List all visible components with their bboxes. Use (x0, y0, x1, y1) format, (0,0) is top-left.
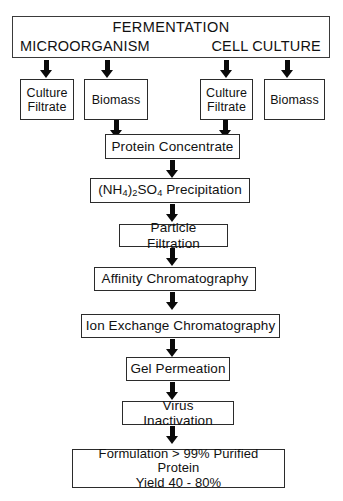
outcome-line1: Formulation > 99% Purified Protein (99, 446, 259, 476)
flowchart-canvas: FERMENTATION MICROORGANISM CELL CULTURE … (0, 0, 343, 501)
box-label-line1: Culture (206, 86, 247, 100)
step-label: (NH4)2SO4 Precipitation (91, 182, 249, 198)
arrow-header-to-cell-culture-filtrate (220, 60, 233, 78)
box-label-line2: Filtrate (207, 100, 246, 114)
box-label-line1: Culture (27, 86, 68, 100)
box-protein-concentrate: Protein Concentrate (105, 134, 240, 159)
microorganism-label: MICROORGANISM (20, 38, 150, 54)
step-label: Ion Exchange Chromatography (82, 318, 279, 333)
box-label-line1: Biomass (85, 93, 147, 107)
fermentation-header-box: FERMENTATION MICROORGANISM CELL CULTURE (12, 16, 330, 58)
step-label: Protein Concentrate (106, 139, 239, 154)
box-cell-culture-filtrate: Culture Filtrate (200, 79, 253, 120)
cell-culture-label: CELL CULTURE (211, 38, 321, 54)
arrow-header-to-cell-biomass (281, 60, 294, 78)
formula-prefix: (NH (98, 182, 122, 197)
fermentation-title: FERMENTATION (13, 19, 329, 35)
box-micro-culture-filtrate: Culture Filtrate (20, 79, 74, 120)
arrow-particle-filtration-to-affinity-chromatography (166, 248, 179, 266)
arrow-header-to-micro-biomass (101, 60, 114, 78)
box-particle-filtration: Particle Filtration (119, 224, 228, 247)
arrow-protein-concentrate-to-precipitation (166, 160, 179, 178)
arrow-precipitation-to-particle-filtration (166, 204, 179, 222)
step-label: Gel Permeation (127, 361, 229, 376)
step-label: Particle Filtration (120, 220, 227, 250)
arrow-header-to-micro-culture-filtrate (40, 60, 53, 78)
box-micro-biomass: Biomass (84, 79, 148, 120)
box-formulation-outcome: Formulation > 99% Purified Protein Yield… (72, 449, 285, 488)
box-ammonium-sulfate-precipitation: (NH4)2SO4 Precipitation (90, 178, 250, 203)
box-affinity-chromatography: Affinity Chromatography (94, 267, 256, 291)
step-label: Affinity Chromatography (95, 271, 255, 286)
arrow-affinity-to-ion-exchange (166, 292, 179, 310)
outcome-line2: Yield 40 - 80% (136, 475, 221, 490)
box-cell-biomass: Biomass (264, 79, 325, 120)
arrow-virus-inactivation-to-formulation (166, 426, 179, 444)
box-label-line2: Filtrate (27, 100, 66, 114)
formula-mid-2: SO (137, 182, 157, 197)
formula-suffix: Precipitation (162, 182, 241, 197)
box-virus-inactivation: Virus Inactivation (122, 401, 234, 425)
box-gel-permeation: Gel Permeation (126, 357, 230, 381)
box-label-line1: Biomass (265, 93, 324, 107)
box-ion-exchange-chromatography: Ion Exchange Chromatography (81, 314, 280, 338)
step-label: Virus Inactivation (123, 398, 233, 428)
arrow-ion-exchange-to-gel-permeation (166, 339, 179, 357)
